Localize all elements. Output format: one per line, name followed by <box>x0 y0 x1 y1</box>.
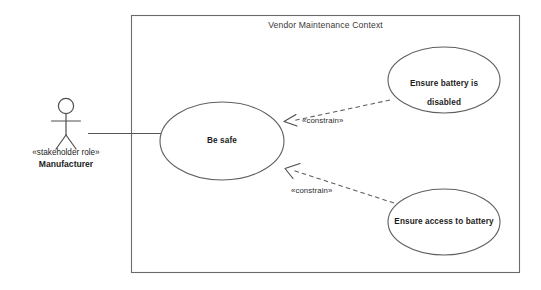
actor-stick-figure-icon[interactable] <box>52 98 81 149</box>
diagram-canvas <box>0 0 541 290</box>
use-case-ellipse-ensure-access-to-battery[interactable] <box>388 189 500 255</box>
actor-head-icon <box>58 98 73 113</box>
actor-right-leg-icon <box>66 135 76 149</box>
use-case-ellipse-be-safe[interactable] <box>160 102 284 180</box>
use-case-ellipse-ensure-battery-is-disabled[interactable] <box>388 47 500 113</box>
actor-left-leg-icon <box>56 135 66 149</box>
use-case-diagram: Vendor Maintenance Context «stakeholder … <box>0 0 541 290</box>
